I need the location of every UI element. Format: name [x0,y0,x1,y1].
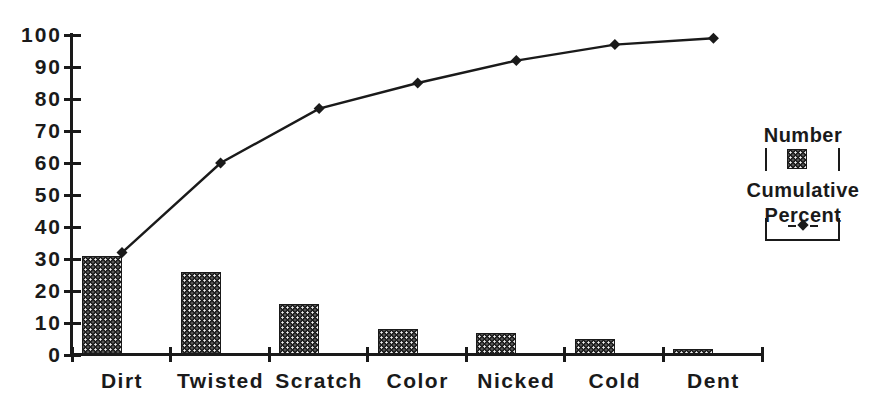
y-tick-label: 50 [6,184,62,206]
line-swatch-dash [810,225,818,227]
legend-line-swatch-box [765,218,840,241]
y-tick-label: 90 [6,56,62,78]
line-swatch-dash [788,225,796,227]
y-tick [64,66,81,69]
legend-cumulative-label: Cumulative [743,179,863,201]
y-tick [64,34,81,37]
legend-number-label: Number [743,124,863,146]
y-tick-label: 80 [6,88,62,110]
y-tick-label: 0 [6,344,62,366]
y-tick [64,98,81,101]
x-tick [169,347,172,362]
line-marker-diamond [708,33,719,44]
bar [82,256,122,356]
y-tick-label: 30 [6,248,62,270]
y-tick [64,258,81,261]
bar [181,272,221,356]
y-tick [64,226,81,229]
y-tick-label: 70 [6,120,62,142]
y-tick-label: 20 [6,280,62,302]
pareto-chart: 0102030405060708090100DirtTwistedScratch… [0,0,873,413]
y-tick-label: 10 [6,312,62,334]
bar [378,329,418,356]
x-tick [761,347,764,362]
y-tick [64,130,81,133]
y-tick [64,322,81,325]
y-tick [64,194,81,197]
legend: Number Cumulative Percent [743,122,873,252]
x-tick [366,347,369,362]
line-marker-diamond [215,158,226,169]
line-marker-diamond [609,39,620,50]
y-tick-label: 100 [6,24,62,46]
x-tick [662,347,665,362]
line-marker-diamond [314,103,325,114]
x-axis [70,353,763,356]
line-marker-diamond [511,55,522,66]
bar [279,304,319,356]
legend-box-left-edge [765,148,767,171]
x-tick [268,347,271,362]
x-tick [71,347,74,362]
line-marker-diamond [412,78,423,89]
y-tick [64,290,81,293]
legend-box-right-edge [838,148,840,171]
y-tick-label: 60 [6,152,62,174]
x-tick [563,347,566,362]
y-tick-label: 40 [6,216,62,238]
y-tick [64,162,81,165]
cumulative-percent-line [122,38,713,252]
bar-swatch-icon [787,149,807,169]
line-marker-swatch-icon [797,219,808,230]
x-category-label: Dent [653,369,773,393]
x-tick [465,347,468,362]
